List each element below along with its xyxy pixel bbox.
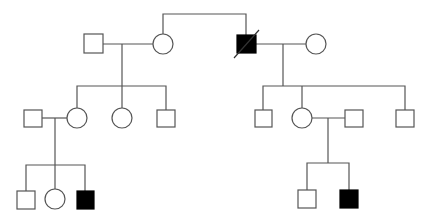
male-unaffected-II4 bbox=[157, 110, 175, 127]
sibship-line-gen3-right bbox=[307, 163, 349, 190]
male-affected-III5 bbox=[340, 190, 358, 208]
pedigree-diagram bbox=[0, 0, 426, 220]
individuals bbox=[17, 30, 414, 209]
male-unaffected-III4 bbox=[298, 190, 316, 208]
male-unaffected-II5 bbox=[255, 110, 272, 127]
pedigree-svg bbox=[0, 0, 426, 220]
male-unaffected-III1 bbox=[17, 191, 35, 209]
female-unaffected-II3 bbox=[112, 108, 132, 128]
male-unaffected-II1 bbox=[24, 110, 42, 127]
female-unaffected-I4 bbox=[306, 34, 326, 54]
male-unaffected-II8 bbox=[396, 110, 414, 127]
sibship-line-right bbox=[263, 86, 405, 110]
male-unaffected-II7 bbox=[345, 110, 363, 127]
female-unaffected-II2 bbox=[67, 108, 87, 128]
male-unaffected-I1 bbox=[84, 34, 103, 53]
female-unaffected-III2 bbox=[45, 189, 65, 209]
female-unaffected-I2 bbox=[153, 34, 173, 54]
connector-lines bbox=[26, 14, 405, 191]
female-unaffected-II6 bbox=[292, 108, 312, 128]
sibling-line-gen1 bbox=[163, 14, 246, 35]
male-affected-III3 bbox=[77, 191, 94, 209]
